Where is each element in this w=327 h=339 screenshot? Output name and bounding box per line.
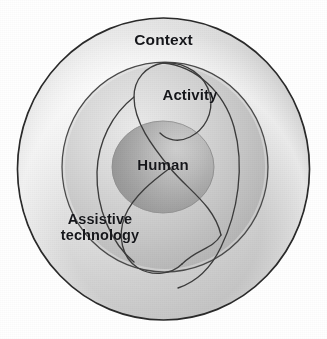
label-human: Human [113, 157, 213, 173]
label-activity: Activity [120, 87, 260, 103]
label-context: Context [0, 32, 327, 49]
label-assistive-technology: Assistive technology [30, 212, 170, 243]
diagram-figure: Context Activity Human Assistive technol… [0, 0, 327, 339]
